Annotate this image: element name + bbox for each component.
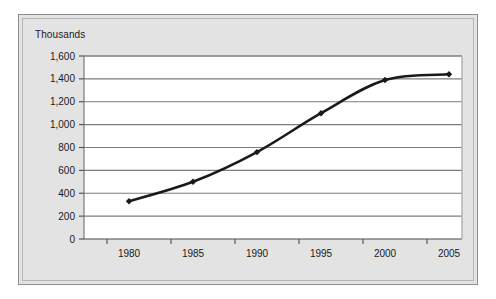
y-tick-label: 1,200: [50, 96, 75, 107]
y-tick-label: 1,000: [50, 119, 75, 130]
x-tick-label: 1990: [246, 248, 269, 259]
y-tick-label: 1,400: [50, 73, 75, 84]
x-tick-label: 1985: [182, 248, 205, 259]
y-tick-label: 200: [58, 211, 75, 222]
line-chart-plot: 02004006008001,0001,2001,4001,600 198019…: [19, 15, 479, 286]
x-tick-label: 1980: [118, 248, 141, 259]
x-tick-label: 1995: [310, 248, 333, 259]
y-tick-label: 0: [69, 234, 75, 245]
y-tick-label: 1,600: [50, 51, 75, 62]
y-tick-group: 02004006008001,0001,2001,4001,600: [50, 51, 84, 245]
chart-figure: Thousands 02004006008001,0001,2001,4001,…: [18, 14, 478, 285]
y-tick-label: 600: [58, 165, 75, 176]
y-tick-label: 800: [58, 142, 75, 153]
y-tick-label: 400: [58, 188, 75, 199]
x-tick-label: 2005: [438, 248, 461, 259]
x-tick-label: 2000: [374, 248, 397, 259]
x-tick-group: 198019851990199520002005: [107, 239, 461, 259]
